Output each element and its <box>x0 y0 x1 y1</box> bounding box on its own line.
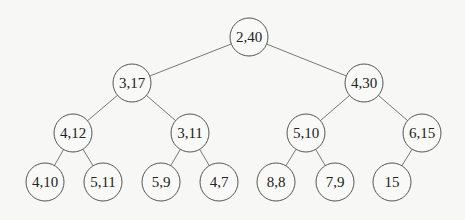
tree-node: 15 <box>373 163 411 201</box>
tree-edge <box>146 95 175 120</box>
tree-node: 4,12 <box>54 114 92 152</box>
node-label: 4,30 <box>351 75 377 91</box>
tree-node: 2,40 <box>230 18 268 56</box>
tree-node: 6,15 <box>403 114 441 152</box>
tree-edge <box>83 149 93 166</box>
tree-node: 4,7 <box>200 163 238 201</box>
tree-edge <box>378 95 407 120</box>
tree-node: 4,10 <box>26 163 64 201</box>
tree-edge <box>87 95 117 120</box>
tree-node: 4,30 <box>345 64 383 102</box>
tree-node: 7,9 <box>316 163 354 201</box>
tree-node: 3,11 <box>171 114 209 152</box>
tree-node: 5,10 <box>287 114 325 152</box>
nodes-layer: 2,403,174,304,123,115,106,154,105,115,94… <box>26 18 441 201</box>
node-label: 5,10 <box>293 125 319 141</box>
node-label: 2,40 <box>236 29 262 45</box>
node-label: 15 <box>385 174 400 190</box>
node-label: 4,12 <box>60 125 86 141</box>
tree-edge <box>171 149 181 165</box>
node-label: 3,17 <box>119 75 146 91</box>
tree-edge <box>267 44 347 76</box>
tree-node: 8,8 <box>257 163 295 201</box>
tree-node: 5,11 <box>84 163 122 201</box>
tree-node: 5,9 <box>142 163 180 201</box>
node-label: 3,11 <box>177 125 203 141</box>
tree-svg: 2,403,174,304,123,115,106,154,105,115,94… <box>0 0 465 220</box>
node-label: 8,8 <box>267 174 286 190</box>
tree-diagram: 2,403,174,304,123,115,106,154,105,115,94… <box>0 0 465 220</box>
tree-edge <box>320 95 349 120</box>
node-label: 4,7 <box>210 174 229 190</box>
node-label: 4,10 <box>32 174 58 190</box>
tree-edge <box>200 149 210 165</box>
tree-edge <box>316 149 326 165</box>
tree-edge <box>54 149 63 165</box>
node-label: 5,9 <box>152 174 171 190</box>
tree-edge <box>402 149 412 166</box>
tree-edge <box>286 149 296 166</box>
edges-layer <box>54 44 412 166</box>
node-label: 7,9 <box>326 174 345 190</box>
tree-node: 3,17 <box>113 64 151 102</box>
tree-edge <box>150 44 232 76</box>
node-label: 5,11 <box>90 174 116 190</box>
node-label: 6,15 <box>409 125 435 141</box>
